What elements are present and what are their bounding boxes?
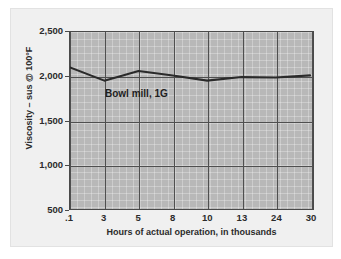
plot-area xyxy=(69,31,314,210)
x-tick-label-4: 10 xyxy=(202,213,213,223)
y-tick-label-500: 500 xyxy=(17,205,63,215)
x-axis-label: Hours of actual operation, in thousands xyxy=(69,227,314,237)
x-tick-label-1: 3 xyxy=(101,213,106,223)
chart-figure: 2,500 2,000 1,500 1,000 500 Viscosity – … xyxy=(0,0,341,259)
x-tick-label-0: .1 xyxy=(65,213,73,223)
y-axis-label: Viscosity – sus @ 100°F xyxy=(24,23,34,173)
chart-annotation-bowl-mill: Bowl mill, 1G xyxy=(105,88,168,99)
series-polyline xyxy=(70,67,310,80)
x-tick-label-7: 30 xyxy=(306,213,317,223)
x-tick-label-5: 13 xyxy=(237,213,248,223)
y-tick-mark-500 xyxy=(65,210,69,211)
x-tick-label-3: 8 xyxy=(170,213,175,223)
x-tick-label-2: 5 xyxy=(135,213,140,223)
x-tick-label-6: 24 xyxy=(271,213,282,223)
series-line-bowl-mill-1g xyxy=(70,32,313,209)
